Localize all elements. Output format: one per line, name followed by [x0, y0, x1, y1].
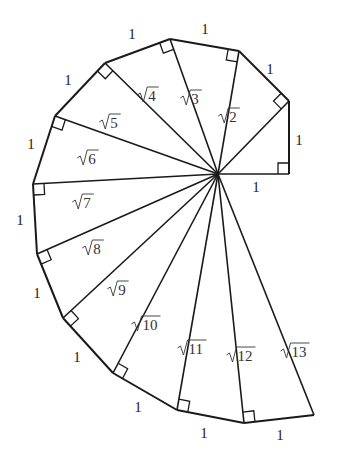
- right-angle-icon: [97, 71, 112, 79]
- unit-label: 1: [266, 61, 274, 77]
- unit-label: 1: [295, 132, 303, 148]
- unit-label: 1: [33, 285, 41, 301]
- unit-edge: [63, 318, 113, 373]
- unit-label: 1: [134, 399, 142, 415]
- sqrt-label: 8: [82, 240, 104, 257]
- unit-edge: [105, 39, 170, 63]
- radicand: 5: [110, 115, 118, 131]
- hypotenuse-line: [55, 116, 218, 174]
- right-angle-markers: [34, 43, 289, 422]
- hypotenuse-line: [33, 174, 218, 184]
- unit-edge: [177, 410, 244, 423]
- sqrt-label: 9: [107, 281, 129, 298]
- sqrt-label: 5: [99, 114, 121, 131]
- unit-label: 1: [128, 26, 136, 42]
- unit-label: 1: [276, 427, 284, 443]
- sqrt-label: 7: [72, 194, 94, 211]
- unit-label: 1: [27, 136, 35, 152]
- sqrt-label: 13: [281, 343, 310, 360]
- right-angle-icon: [278, 163, 289, 174]
- unit-edge: [55, 63, 105, 116]
- sqrt-label: 12: [227, 347, 256, 364]
- hypotenuse-line: [218, 174, 244, 423]
- radicand: 13: [292, 344, 307, 360]
- radicand: 11: [189, 341, 203, 357]
- unit-label: 1: [73, 349, 81, 365]
- unit-label: 1: [200, 425, 208, 441]
- radicand: 8: [93, 241, 101, 257]
- spiral-of-theodorus-diagram: 1111111111111 2345678910111213: [0, 0, 351, 466]
- right-angle-icon: [274, 93, 282, 109]
- unit-edge: [113, 373, 177, 410]
- sqrt-label: 11: [178, 340, 207, 357]
- radicand: 9: [118, 282, 126, 298]
- radicand: 2: [229, 109, 237, 125]
- unit-edge: [33, 116, 55, 184]
- hypotenuse-line: [177, 174, 218, 410]
- unit-label: 1: [64, 72, 72, 88]
- sqrt-label: 3: [180, 90, 202, 107]
- sqrt-label: 2: [218, 108, 240, 125]
- unit-length-labels: 1111111111111: [16, 21, 303, 443]
- hypotenuse-line: [37, 174, 218, 254]
- unit-label: 1: [201, 21, 209, 37]
- right-angle-icon: [243, 411, 255, 422]
- hypotenuse-line: [218, 174, 314, 415]
- sqrt-label: 6: [77, 150, 99, 167]
- hypotenuse-line: [105, 63, 218, 174]
- sqrt-label: 4: [137, 87, 159, 104]
- unit-label: 1: [16, 212, 24, 228]
- radicand: 7: [83, 195, 91, 211]
- radicand: 6: [88, 151, 96, 167]
- right-angle-icon: [70, 311, 78, 327]
- unit-edges: [33, 39, 314, 423]
- radicand: 3: [191, 91, 199, 107]
- radicand: 4: [148, 88, 156, 104]
- radicand: 10: [143, 317, 158, 333]
- radicand: 12: [238, 348, 253, 364]
- unit-label: 1: [252, 179, 260, 195]
- hypotenuse-spokes: [33, 39, 314, 423]
- right-angle-icon: [34, 183, 45, 195]
